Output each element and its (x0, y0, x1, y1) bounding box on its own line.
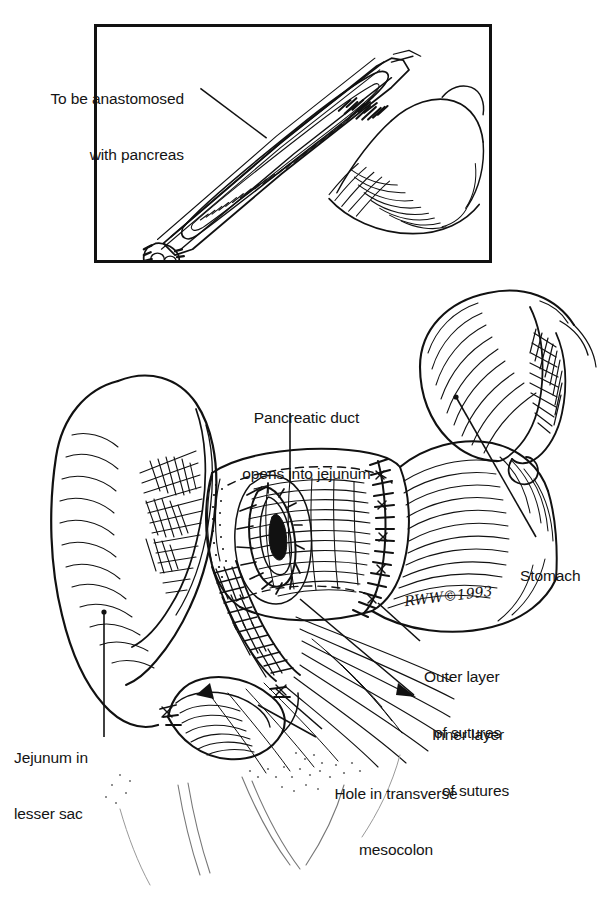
label-hole-in-transverse-mesocolon: Hole in transverse mesocolon (316, 748, 476, 896)
label-hole-line2: mesocolon (316, 841, 476, 860)
leader-dot-stomach (453, 394, 458, 399)
label-jejunum-line1: Jejunum in (14, 749, 134, 768)
leader-line-to-be-anastomosed (200, 88, 266, 138)
label-outer-layer-line1: Outer layer (424, 668, 534, 687)
leader-arrow-inner-layer (396, 683, 416, 697)
label-jejunum-line2: lesser sac (14, 805, 134, 824)
label-pancreatic-duct: Pancreatic duct opens into jejunum (219, 372, 394, 520)
inset-label-to-be-anastomosed: To be anastomosed with pancreas (14, 53, 184, 201)
leader-dot-jejunum-lesser-sac (101, 609, 106, 614)
label-stomach: Stomach (520, 530, 606, 623)
leader-arrow-hole (196, 683, 214, 699)
label-hole-line1: Hole in transverse (316, 785, 476, 804)
label-jejunum-in-lesser-sac: Jejunum in lesser sac (14, 712, 134, 860)
inset-label-line2: with pancreas (14, 146, 184, 165)
label-pancreatic-duct-line2: opens into jejunum (219, 465, 394, 484)
leader-line-stomach (456, 397, 536, 537)
inset-label-line1: To be anastomosed (14, 90, 184, 109)
leader-line-outer-layer (378, 603, 420, 641)
label-stomach-line1: Stomach (520, 567, 606, 586)
label-pancreatic-duct-line1: Pancreatic duct (219, 409, 394, 428)
surgical-illustration-figure: To be anastomosed with pancreas (0, 0, 610, 905)
leader-line-hole-a (258, 705, 316, 737)
label-inner-layer-line1: Inner layer (432, 726, 542, 745)
